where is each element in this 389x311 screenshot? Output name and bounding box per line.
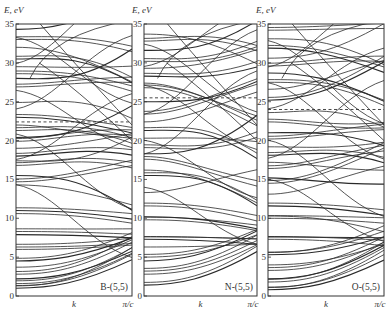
band-line [16, 90, 132, 147]
y-axis-label: E, eV [255, 5, 277, 15]
band-line [16, 0, 132, 64]
band-line [16, 185, 132, 205]
band-line [268, 166, 384, 194]
y-tick-label: 25 [5, 97, 15, 107]
band-line [268, 239, 384, 245]
band-line [16, 47, 132, 82]
y-tick-label: 20 [257, 136, 267, 146]
band-lines [268, 0, 384, 290]
y-tick-label: 0 [138, 291, 143, 301]
band-line [144, 229, 257, 254]
y-tick-label: 30 [5, 58, 15, 68]
panel-b55: 05101520253035E, eVkπ/cB-(5,5) [3, 0, 134, 309]
band-line [268, 237, 384, 238]
band-line [16, 176, 132, 211]
band-line [16, 238, 132, 244]
band-line [268, 48, 384, 72]
y-tick-label: 5 [262, 252, 267, 262]
y-tick-label: 25 [133, 97, 143, 107]
panel-o55: 05101520253035E, eVkπ/cO-(5,5) [255, 0, 386, 309]
band-line [144, 239, 257, 244]
y-tick-label: 20 [133, 136, 143, 146]
band-line [268, 218, 384, 223]
panel-label: B-(5,5) [100, 282, 128, 293]
band-line [144, 217, 257, 225]
y-tick-label: 35 [133, 19, 143, 29]
band-line [268, 153, 384, 162]
band-line [144, 47, 257, 62]
band-line [16, 162, 132, 168]
y-tick-label: 20 [5, 136, 15, 146]
panel-n55: 05101520253035E, eVkπ/cN-(5,5) [131, 5, 259, 309]
x-label-pi-over-c: π/c [247, 299, 258, 309]
y-tick-label: 35 [5, 19, 15, 29]
band-line [16, 151, 132, 156]
band-line [144, 130, 257, 158]
y-tick-label: 35 [257, 19, 267, 29]
y-tick-label: 25 [257, 97, 267, 107]
y-tick-label: 30 [133, 58, 143, 68]
band-line [16, 134, 132, 209]
y-tick-label: 30 [257, 58, 267, 68]
x-label-pi-over-c: π/c [122, 299, 133, 309]
band-line [16, 66, 132, 67]
band-line [16, 37, 132, 47]
band-line [16, 101, 132, 118]
band-line [144, 138, 257, 142]
band-line [16, 235, 132, 238]
band-line [144, 244, 257, 247]
y-tick-label: 10 [257, 213, 267, 223]
band-line [16, 232, 132, 235]
band-line [268, 73, 384, 101]
y-axis-label: E, eV [3, 5, 25, 15]
panel-label: N-(5,5) [225, 282, 253, 293]
y-tick-label: 10 [133, 213, 143, 223]
band-line [268, 179, 384, 241]
panel-label: O-(5,5) [352, 282, 380, 293]
y-tick-label: 5 [10, 252, 15, 262]
band-lines [144, 5, 257, 285]
x-label-k: k [324, 299, 329, 309]
band-line [144, 206, 257, 221]
band-line [16, 39, 132, 51]
band-line [268, 206, 384, 215]
y-tick-label: 5 [138, 252, 143, 262]
y-axis-label: E, eV [131, 5, 153, 15]
y-tick-label: 15 [5, 174, 15, 184]
band-line [16, 166, 132, 182]
band-structure-figure: 05101520253035E, eVkπ/cB-(5,5)0510152025… [0, 0, 389, 311]
x-label-k: k [72, 299, 77, 309]
y-tick-label: 0 [262, 291, 267, 301]
y-tick-label: 0 [10, 291, 15, 301]
x-label-pi-over-c: π/c [374, 299, 385, 309]
plot-frame [268, 24, 384, 296]
band-line [16, 214, 132, 224]
band-line [16, 0, 132, 29]
y-tick-label: 10 [5, 213, 15, 223]
x-label-k: k [199, 299, 204, 309]
band-line [268, 60, 384, 89]
band-line [16, 94, 132, 160]
band-lines [16, 0, 132, 288]
y-tick-label: 15 [257, 174, 267, 184]
y-tick-label: 15 [133, 174, 143, 184]
band-line [268, 178, 384, 184]
